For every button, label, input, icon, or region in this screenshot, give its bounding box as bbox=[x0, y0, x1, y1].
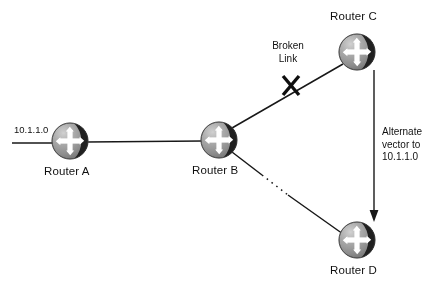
link-router-b-router-c bbox=[232, 64, 343, 128]
router-node-a[interactable] bbox=[45, 122, 96, 160]
router-c-label: Router C bbox=[330, 10, 377, 22]
broken-link-x-marker bbox=[283, 76, 299, 95]
network-address-label: 10.1.1.0 bbox=[14, 124, 48, 135]
diagram-canvas: Router B --> Router C (broken link, cros… bbox=[0, 0, 435, 291]
alternate-vector-arrowhead bbox=[370, 210, 379, 222]
router-a-label: Router A bbox=[44, 165, 90, 177]
network-diagram: Router B --> Router C (broken link, cros… bbox=[0, 0, 435, 291]
broken-link-annotation-line2: Link bbox=[262, 53, 314, 66]
link-router-b-router-d-dotted bbox=[262, 175, 288, 195]
link-router-a-router-b bbox=[87, 141, 202, 142]
router-d-label: Router D bbox=[330, 264, 377, 276]
router-b-label: Router B bbox=[192, 164, 238, 176]
alternate-vector-annotation-line1: Alternate bbox=[382, 126, 435, 139]
alternate-vector-annotation: Alternate vector to 10.1.1.0 bbox=[382, 126, 435, 164]
router-node-d[interactable] bbox=[332, 221, 383, 259]
broken-link-annotation-line1: Broken bbox=[262, 40, 314, 53]
alternate-vector-annotation-line2: vector to bbox=[382, 139, 435, 152]
link-router-b-router-d-lower bbox=[288, 195, 343, 234]
alternate-vector-annotation-line3: 10.1.1.0 bbox=[382, 151, 435, 164]
router-node-b[interactable] bbox=[194, 121, 245, 159]
broken-link-annotation: Broken Link bbox=[262, 40, 314, 65]
